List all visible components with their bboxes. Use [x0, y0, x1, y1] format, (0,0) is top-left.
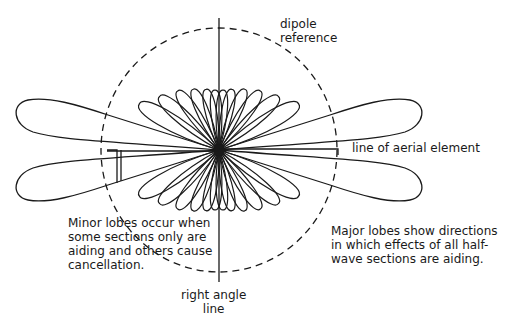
minor-lobes-note: Minor lobes occur when some sections onl…: [68, 216, 212, 272]
line-of-aerial-element-label: line of aerial element: [352, 141, 480, 155]
center-node: [213, 144, 225, 156]
dipole-reference-label: dipole reference: [280, 17, 337, 45]
right-angle-line-label: right angle line: [181, 288, 246, 316]
radiation-pattern-diagram: [0, 0, 511, 326]
major-lobes-note: Major lobes show directions in which eff…: [331, 224, 498, 266]
